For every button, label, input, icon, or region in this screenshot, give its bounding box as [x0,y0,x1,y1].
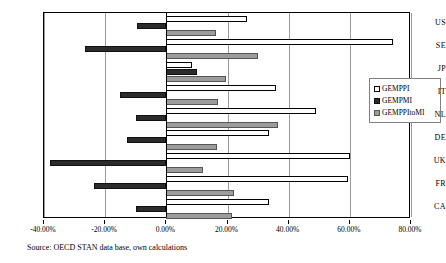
category-row-nl [44,105,409,128]
x-axis-label-5: 60.00% [337,225,360,234]
category-row-ca [44,196,409,219]
bar-nl-gempmi [136,115,167,121]
source-note: Source: OECD STAN data base, own calcula… [27,243,187,252]
bar-us-gempmi [137,23,166,29]
chart-container: GEMPPI GEMPMI GEMPPItoMI USSEJPITNLDEUKF… [0,0,446,263]
bar-fr-gemppi [166,176,348,182]
category-row-fr [44,173,409,196]
bar-ca-gemppi [166,199,268,205]
x-axis-tick-3 [227,220,228,224]
bar-uk-gempmi [50,160,166,166]
category-row-se [44,36,409,59]
legend-swatch-gempmi [374,98,380,104]
category-row-it [44,82,409,105]
bar-ca-gemppitomi [166,213,232,219]
bar-it-gemppi [166,85,276,91]
bar-fr-gempmi [94,183,166,189]
category-row-us [44,13,409,36]
bar-de-gempmi [127,137,167,143]
bar-uk-gemppi [166,153,350,159]
x-axis-tick-5 [349,220,350,224]
y-axis-label-de: DE [408,133,446,142]
bar-nl-gemppi [166,108,316,114]
category-row-jp [44,59,409,82]
legend-swatch-gemppitomi [374,110,380,116]
zero-axis-line [166,13,167,217]
y-axis-label-us: US [408,18,446,27]
x-axis-label-1: -20.00% [91,225,117,234]
legend-label-gempmi: GEMPMI [382,96,412,105]
bar-de-gemppi [166,130,268,136]
x-axis-label-6: 80.00% [398,225,421,234]
x-axis-tick-6 [410,220,411,224]
y-axis-label-se: SE [408,41,446,50]
x-axis-tick-2 [165,220,166,224]
x-axis-tick-0 [43,220,44,224]
legend-swatch-gemppi [374,86,380,92]
bar-se-gempmi [85,46,166,52]
x-axis-tick-1 [104,220,105,224]
x-axis-label-2: 0.00% [156,225,175,234]
x-axis-label-0: -40.00% [30,225,56,234]
bar-us-gemppi [166,16,247,22]
bar-it-gempmi [120,92,166,98]
legend-item-gempmi[interactable]: GEMPMI [374,95,437,106]
bar-se-gemppi [166,39,392,45]
y-axis-label-jp: JP [408,64,446,73]
bar-ca-gempmi [136,206,167,212]
bar-jp-gemppi [166,62,192,68]
y-axis-label-ca: CA [408,202,446,211]
y-axis-label-uk: UK [408,156,446,165]
y-axis-label-fr: FR [408,179,446,188]
y-axis-label-nl: NL [408,110,446,119]
category-row-de [44,127,409,150]
y-axis-label-it: IT [408,87,446,96]
x-axis-tick-4 [288,220,289,224]
category-row-uk [44,150,409,173]
legend-label-gemppi: GEMPPI [382,84,410,93]
x-axis-label-3: 20.00% [215,225,238,234]
x-axis-label-4: 40.00% [276,225,299,234]
plot-area: GEMPPI GEMPMI GEMPPItoMI [43,12,410,218]
x-axis: -40.00%-20.00%0.00%20.00%40.00%60.00%80.… [0,220,446,236]
bar-jp-gempmi [166,69,197,75]
